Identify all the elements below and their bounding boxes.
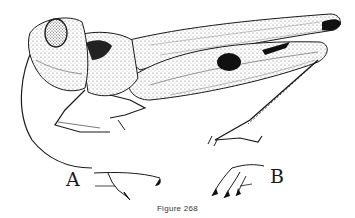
figure-illustration xyxy=(0,0,355,218)
compound-eye xyxy=(45,19,67,47)
detail-b-drawing xyxy=(212,165,264,198)
spot xyxy=(217,53,241,71)
detail-label-a: A xyxy=(66,170,80,189)
hind-tarsus xyxy=(215,136,262,142)
figure-caption: Figure 268 xyxy=(0,204,355,213)
detail-label-b: B xyxy=(270,167,284,186)
detail-a-drawing xyxy=(94,173,161,200)
